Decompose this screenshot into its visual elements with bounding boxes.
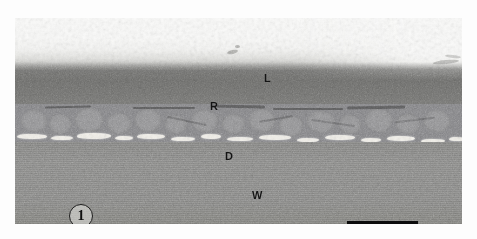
band-segment xyxy=(171,137,195,141)
region-rod-layer xyxy=(15,62,462,110)
label-rod-layer: R xyxy=(210,101,218,112)
membrane-streak xyxy=(347,105,405,109)
scale-bar xyxy=(347,221,418,224)
debris-fleck-2 xyxy=(235,45,240,48)
vacuole xyxy=(424,110,450,132)
band-segment xyxy=(449,137,462,141)
band-segment xyxy=(17,134,47,139)
label-wall: W xyxy=(252,190,263,201)
band-segment xyxy=(201,134,221,139)
band-segment xyxy=(51,136,73,140)
band-segment xyxy=(259,135,291,140)
vacuole xyxy=(75,108,103,132)
band-segment xyxy=(387,136,415,141)
label-dark-band: D xyxy=(225,151,233,162)
label-lumen: L xyxy=(264,73,271,84)
band-segment xyxy=(325,135,355,140)
band-segment xyxy=(115,136,133,140)
vacuole xyxy=(135,109,161,132)
band-segment xyxy=(227,137,253,141)
membrane-streak xyxy=(211,105,265,109)
figure-container: L R D W 1 xyxy=(0,0,477,239)
micrograph-image: L R D W 1 xyxy=(15,18,462,224)
membrane-streak xyxy=(133,107,195,109)
figure-number-badge: 1 xyxy=(69,204,93,224)
vacuole xyxy=(21,110,47,132)
band-segment xyxy=(77,133,111,139)
vacuole xyxy=(365,109,392,132)
band-segment xyxy=(137,134,165,139)
membrane-streak xyxy=(273,108,343,110)
